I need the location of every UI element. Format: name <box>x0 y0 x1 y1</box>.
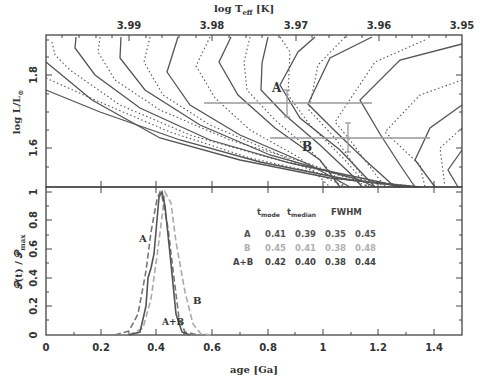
svg-text:0.40: 0.40 <box>295 257 316 267</box>
top-panel: A B 3.99 3.98 3.97 3.96 <box>11 3 474 187</box>
table-header-tmode: tmode <box>257 207 280 218</box>
bottom-xtick: 0.6 <box>203 342 221 353</box>
bottom-ytick: 0.6 <box>28 240 39 258</box>
bottom-ytick: 1 <box>28 188 39 195</box>
bottom-ytick: 0 <box>28 331 39 338</box>
point-label-a: A <box>271 81 282 95</box>
svg-text:0.38: 0.38 <box>325 257 346 267</box>
figure: A B 3.99 3.98 3.97 3.96 <box>0 0 480 384</box>
isochrones-solid <box>46 37 462 187</box>
table-row-a: A 0.41 0.39 0.35 0.45 <box>244 229 376 239</box>
svg-text:0.42: 0.42 <box>265 257 286 267</box>
bottom-yaxis-label: 𝒫(t) / 𝒫max <box>13 234 27 291</box>
table-row-a-plus-b: A+B 0.42 0.40 0.38 0.44 <box>233 257 376 267</box>
bottom-xtick: 1.4 <box>425 342 443 353</box>
bottom-xtick: 0.8 <box>259 342 277 353</box>
top-xtick: 3.96 <box>367 20 392 31</box>
curve-label-b: B <box>193 295 201 306</box>
top-xaxis-label: log Teff [K] <box>214 3 274 17</box>
top-ytick: 1.8 <box>28 66 39 84</box>
svg-text:0.38: 0.38 <box>325 243 346 253</box>
bottom-ytick: 0.8 <box>28 211 39 229</box>
table-row-b: B 0.45 0.41 0.38 0.48 <box>244 243 376 253</box>
svg-text:A: A <box>244 229 251 239</box>
svg-text:0.41: 0.41 <box>265 229 286 239</box>
curve-a-plus-b <box>129 192 190 335</box>
svg-text:0.45: 0.45 <box>265 243 286 253</box>
curve-label-a-plus-b: A+B <box>161 317 185 327</box>
table-header-fwhm: FWHM <box>331 207 362 217</box>
svg-text:0.35: 0.35 <box>325 229 346 239</box>
top-xtick: 3.99 <box>117 20 142 31</box>
bottom-xtick: 1 <box>320 342 327 353</box>
bottom-xtick: 0.4 <box>147 342 165 353</box>
svg-text:0.48: 0.48 <box>355 243 376 253</box>
svg-text:A+B: A+B <box>233 257 253 267</box>
bottom-xtick: 0.2 <box>92 342 110 353</box>
bottom-plot-frame <box>46 187 462 335</box>
bottom-xaxis-label: age [Ga] <box>230 364 278 375</box>
bottom-panel: A B A+B 0 0.2 0.4 0.6 0.8 1 1.2 1.4 age <box>13 187 462 375</box>
curve-label-a: A <box>138 233 147 244</box>
stats-table: tmode tmedian FWHM A 0.41 0.39 0.35 0.45… <box>233 207 376 267</box>
bottom-axis-ticks <box>46 187 462 335</box>
svg-text:B: B <box>244 243 250 253</box>
point-label-b: B <box>302 140 312 154</box>
bottom-ytick: 0.4 <box>28 269 39 287</box>
bottom-xtick: 0 <box>43 342 50 353</box>
top-xtick: 3.98 <box>200 20 225 31</box>
svg-text:0.44: 0.44 <box>355 257 376 267</box>
top-xtick: 3.95 <box>450 20 475 31</box>
svg-text:0.41: 0.41 <box>295 243 316 253</box>
bottom-xtick: 1.2 <box>369 342 387 353</box>
top-yaxis-label: log L/L⊙ <box>11 90 25 135</box>
bottom-ytick: 0.2 <box>28 297 39 315</box>
top-xtick: 3.97 <box>284 20 309 31</box>
svg-text:0.39: 0.39 <box>295 229 316 239</box>
svg-text:0.45: 0.45 <box>355 229 376 239</box>
table-header-tmedian: tmedian <box>287 207 316 218</box>
top-ytick: 1.6 <box>28 139 39 157</box>
